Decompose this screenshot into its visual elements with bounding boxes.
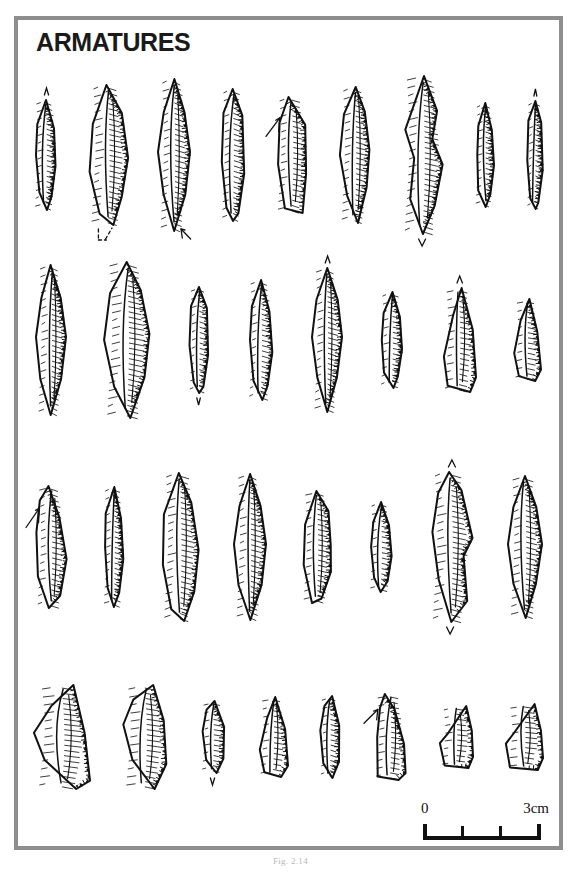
artifact-row-3 [18,462,559,632]
artifact-r3-1 [21,470,81,624]
artifact-r4-4 [244,681,302,793]
artifact-r3-4 [220,458,280,636]
artifact-r2-6 [365,276,419,404]
artifact-r2-4 [233,264,289,416]
artifact-r2-5 [298,252,356,428]
artifact-r4-1 [20,669,104,805]
artifact-r2-7 [428,272,490,408]
scale-bar-graphic [421,820,545,846]
artifact-r4-3 [186,685,240,789]
illustration-plate: ARMATURES 0 3cm Fig. 2.14 [0,0,581,872]
artifact-r1-2 [74,69,142,241]
artifact-row-2 [18,257,559,422]
artifact-r3-5 [287,475,347,619]
artifact-r1-7 [387,60,459,250]
page-title: ARMATURES [36,30,190,55]
artifact-r1-4 [206,73,260,237]
scale-bar-min-label: 0 [421,800,429,817]
artifact-r2-1 [22,249,80,431]
artifact-row-4 [18,677,559,797]
scale-bar-max-label: 3cm [523,800,549,817]
artifact-r3-7 [415,456,487,638]
figure-caption: Fig. 2.14 [0,856,581,866]
artifact-r2-3 [174,271,224,409]
artifact-r1-9 [512,85,558,225]
artifact-r1-8 [460,87,510,223]
artifact-r2-8 [499,283,555,397]
artifact-r4-7 [425,690,487,784]
artifact-r1-5 [261,81,323,229]
artifact-r1-6 [325,71,385,239]
scale-bar: 0 3cm [421,800,545,846]
artifact-grid [18,72,559,802]
artifact-r1-1 [19,84,73,226]
artifact-r1-3 [144,63,204,247]
artifact-r4-6 [359,678,421,796]
artifact-r4-5 [305,680,355,794]
artifact-row-1 [18,72,559,237]
artifact-r4-2 [108,669,182,805]
artifact-r3-3 [147,457,213,637]
artifact-r4-8 [491,688,557,786]
artifact-r3-8 [494,460,556,634]
artifact-r3-6 [354,486,408,608]
artifact-r2-2 [89,246,165,434]
artifact-r3-2 [88,471,140,623]
